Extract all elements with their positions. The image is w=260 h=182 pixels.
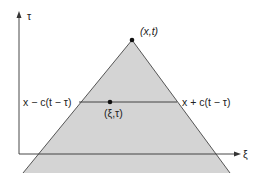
domain-of-dependence-diagram: τ ξ (x,t) (ξ,τ) x − c(t − τ) x + c(t − τ…	[0, 0, 260, 182]
tau-axis-label: τ	[27, 10, 32, 22]
segment-left-label: x − c(t − τ)	[23, 96, 72, 108]
interior-point-label: (ξ,τ)	[104, 107, 123, 119]
tau-axis-arrow-icon	[17, 11, 22, 18]
segment-right-label: x + c(t − τ)	[182, 96, 231, 108]
xi-axis-arrow-icon	[234, 152, 241, 157]
apex-label: (x,t)	[140, 25, 158, 37]
apex-point	[130, 38, 135, 43]
interior-point	[108, 100, 113, 105]
xi-axis-label: ξ	[243, 148, 248, 160]
